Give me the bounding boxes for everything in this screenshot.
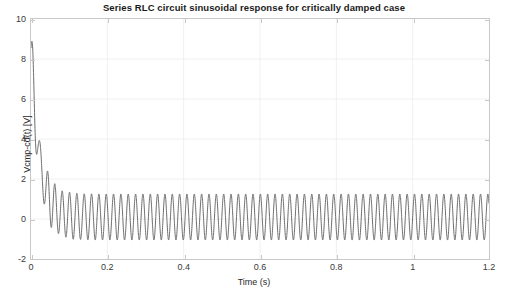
x-tick-mark-top — [337, 19, 338, 23]
y-tick-mark-right — [485, 220, 489, 221]
x-axis-label: Time (s) — [0, 277, 508, 287]
y-tick-mark-right — [485, 20, 489, 21]
y-tick-label: 10 — [0, 14, 26, 24]
x-tick-mark — [108, 255, 109, 259]
x-tick-mark — [337, 255, 338, 259]
chart-figure: Series RLC circuit sinusoidal response f… — [0, 0, 508, 298]
y-tick-label: 8 — [0, 54, 26, 64]
y-tick-mark — [31, 20, 35, 21]
x-tick-label: 0.2 — [87, 262, 127, 272]
y-tick-mark — [31, 220, 35, 221]
plot-svg — [31, 19, 489, 259]
y-tick-label: -2 — [0, 254, 26, 264]
x-tick-mark — [32, 255, 33, 259]
plot-area — [30, 18, 490, 260]
y-tick-mark-right — [485, 60, 489, 61]
y-tick-mark — [31, 60, 35, 61]
x-tick-mark — [185, 255, 186, 259]
x-tick-label: 1 — [393, 262, 433, 272]
y-tick-mark-right — [485, 140, 489, 141]
y-axis-label: Vcmp-cd(t) [V] — [22, 74, 32, 214]
y-tick-label: 0 — [0, 214, 26, 224]
x-tick-mark — [414, 255, 415, 259]
x-tick-label: 0.8 — [316, 262, 356, 272]
y-tick-mark-right — [485, 100, 489, 101]
x-tick-mark-top — [414, 19, 415, 23]
x-tick-mark — [261, 255, 262, 259]
x-tick-mark-top — [108, 19, 109, 23]
x-tick-mark-top — [185, 19, 186, 23]
y-tick-mark-right — [485, 180, 489, 181]
page-title: Series RLC circuit sinusoidal response f… — [0, 2, 508, 13]
x-tick-label: 1.2 — [469, 262, 508, 272]
x-tick-mark-top — [261, 19, 262, 23]
x-tick-label: 0.6 — [240, 262, 280, 272]
x-tick-label: 0.4 — [164, 262, 204, 272]
